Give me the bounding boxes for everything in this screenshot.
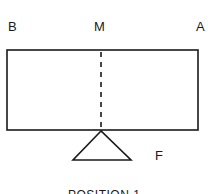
label-a: A xyxy=(196,19,205,34)
fulcrum-triangle-icon xyxy=(73,131,131,160)
label-m: M xyxy=(94,19,105,34)
label-f: F xyxy=(155,148,163,163)
beam-rectangle xyxy=(7,50,198,130)
caption: POSITION 1 xyxy=(68,188,140,194)
label-b: B xyxy=(8,19,17,34)
lever-diagram: B M A F POSITION 1 xyxy=(0,0,208,194)
